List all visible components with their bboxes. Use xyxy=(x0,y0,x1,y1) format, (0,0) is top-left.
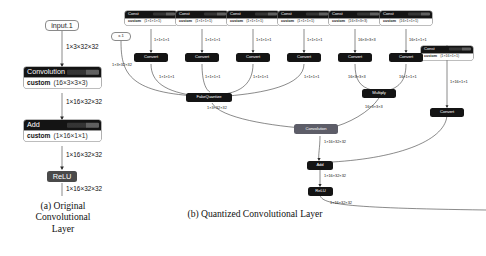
edge-label-b-const-7-out: 1×16×1×1 xyxy=(450,80,468,84)
edge-b-input-fakequantize xyxy=(121,41,196,96)
node-b-convert-5[interactable]: Convert xyxy=(338,53,372,62)
node-a-relu-label: ReLU xyxy=(53,173,72,180)
node-a-add-body: custom (1×16×1×1) xyxy=(24,130,101,141)
node-input-1[interactable]: input.1 xyxy=(45,20,79,31)
node-b-const-6[interactable]: Const custom (16×1×1×1) xyxy=(380,11,432,25)
node-b-convert-1[interactable]: Convert xyxy=(134,53,168,62)
node-b-const-3-title: Const xyxy=(230,12,241,16)
node-a-add-param-name: custom xyxy=(27,133,50,140)
node-b-relu[interactable]: ReLU xyxy=(308,187,333,196)
edge-b-multiply-convolution xyxy=(330,98,379,128)
node-a-convolution[interactable]: Convolution custom (16×3×3×3) xyxy=(24,67,101,88)
node-b-const-1-param-name: custom xyxy=(128,20,141,24)
node-a-add-param-shape: (1×16×1×1) xyxy=(53,133,87,140)
node-a-relu[interactable]: ReLU xyxy=(47,171,77,182)
node-b-const-3-header: Const xyxy=(227,11,279,18)
node-b-const-7-title: Const xyxy=(424,47,435,51)
node-b-fakequantize[interactable]: FakeQuantize xyxy=(186,93,232,102)
node-b-convert-7-label: Convert xyxy=(440,110,454,114)
node-b-const-2-title: Const xyxy=(179,12,190,16)
node-b-const-2[interactable]: Const custom (1×1×1×1) xyxy=(176,11,228,25)
node-b-const-6-title: Const xyxy=(383,12,394,16)
edge-label-b-const-4-out: 1×1×1×1 xyxy=(307,38,322,42)
node-b-const-4-title: Const xyxy=(281,12,292,16)
node-b-const-4[interactable]: Const custom (1×1×1×1) xyxy=(278,11,330,25)
edge-label-a-add-relu: 1×16×32×32 xyxy=(66,152,102,158)
node-b-convert-7[interactable]: Convert xyxy=(430,108,464,117)
node-input-1-label: input.1 xyxy=(51,22,73,29)
node-header-bar-icon xyxy=(204,13,226,16)
node-header-bar-icon xyxy=(449,48,471,51)
node-b-convert-2[interactable]: Convert xyxy=(185,53,219,62)
node-header-bar-icon xyxy=(408,13,430,16)
node-b-convert-6[interactable]: Convert xyxy=(389,53,423,62)
node-b-const-4-param-shape: (1×1×1×1) xyxy=(297,20,314,24)
edge-label-a-relu-out: 1×16×32×32 xyxy=(66,186,102,192)
caption-panel-b: (b) Quantized Convolutional Layer xyxy=(140,208,370,219)
node-b-const-3-body: custom (1×1×1×1) xyxy=(227,18,279,26)
edge-arrowheads xyxy=(60,50,448,187)
node-b-const-1-header: Const xyxy=(125,11,177,18)
node-b-const-5-body: custom (16×3×3×3) xyxy=(329,18,381,26)
node-b-const-2-body: custom (1×1×1×1) xyxy=(176,18,228,26)
edge-b-convolution-add xyxy=(319,136,320,160)
edge-label-a-input-conv: 1×3×32×32 xyxy=(66,44,99,50)
node-b-convolution[interactable]: Convolution xyxy=(294,124,338,134)
edge-label-b-convert-4-out: 1×1×1×1 xyxy=(304,75,319,79)
edge-label-b-const-3-out: 1×1×1×1 xyxy=(256,38,271,42)
caption-panel-a-line-3: Layer xyxy=(8,223,118,234)
node-b-const-2-header: Const xyxy=(176,11,228,18)
edge-label-b-convert-6-out: 16×1×1×1 xyxy=(399,75,417,79)
node-b-const-1-body: custom (1×1×1×1) xyxy=(125,18,177,26)
node-b-const-7[interactable]: Const custom (1×16×1×1) xyxy=(421,46,473,60)
node-b-fakequantize-label: FakeQuantize xyxy=(197,95,222,99)
node-b-add-label: Add xyxy=(316,163,323,167)
caption-panel-a: (a) Original Convolutional Layer xyxy=(8,200,118,234)
node-a-add[interactable]: Add custom (1×16×1×1) xyxy=(24,120,101,141)
node-b-const-7-body: custom (1×16×1×1) xyxy=(421,53,473,61)
node-b-const-2-param-shape: (1×1×1×1) xyxy=(195,20,212,24)
node-a-add-header: Add xyxy=(24,120,101,130)
node-b-convert-2-label: Convert xyxy=(195,55,209,59)
edge-b-convert4-fakequantize xyxy=(228,64,304,96)
node-b-convert-3[interactable]: Convert xyxy=(236,53,270,62)
edge-label-b-convert-3-out: 1×1×1×1 xyxy=(253,75,268,79)
edge-b-convert1-fakequantize xyxy=(151,64,197,96)
node-b-convert-3-label: Convert xyxy=(246,55,260,59)
node-b-const-7-param-name: custom xyxy=(424,55,437,59)
node-b-const-3[interactable]: Const custom (1×1×1×1) xyxy=(227,11,279,25)
node-b-const-6-param-name: custom xyxy=(383,20,396,24)
edge-label-b-const-1-out: 1×1×1×1 xyxy=(154,38,169,42)
edge-label-b-const-5-out: 16×3×3×3 xyxy=(358,38,376,42)
node-b-input-x1[interactable]: x.1 xyxy=(111,32,131,41)
node-b-convolution-label: Convolution xyxy=(305,127,326,131)
node-b-const-7-header: Const xyxy=(421,46,473,53)
edge-label-b-multiply-out: 16×3×3×3 xyxy=(365,105,383,109)
node-b-const-1[interactable]: Const custom (1×1×1×1) xyxy=(125,11,177,25)
node-b-const-4-body: custom (1×1×1×1) xyxy=(278,18,330,26)
node-header-bar-icon xyxy=(306,13,328,16)
node-b-const-3-param-name: custom xyxy=(230,20,243,24)
node-a-convolution-title: Convolution xyxy=(27,68,65,75)
node-b-const-7-param-shape: (1×16×1×1) xyxy=(440,55,459,59)
node-b-const-6-body: custom (16×1×1×1) xyxy=(380,18,432,26)
node-header-bar-icon xyxy=(153,13,175,16)
edge-label-b-fakequantize-out: 1×3×32×32 xyxy=(207,106,227,110)
edge-label-b-convert-5-out: 16×3×3×3 xyxy=(348,75,366,79)
node-b-const-5-param-name: custom xyxy=(332,20,345,24)
edge-label-b-const-2-out: 1×1×1×1 xyxy=(205,38,220,42)
node-b-const-5-header: Const xyxy=(329,11,381,18)
node-b-convert-4[interactable]: Convert xyxy=(287,53,321,62)
node-b-const-5[interactable]: Const custom (16×3×3×3) xyxy=(329,11,381,25)
node-b-multiply[interactable]: Multiply xyxy=(362,89,396,98)
node-a-convolution-header: Convolution xyxy=(24,67,101,77)
node-b-const-6-header: Const xyxy=(380,11,432,18)
node-b-convert-1-label: Convert xyxy=(144,55,158,59)
node-b-multiply-label: Multiply xyxy=(372,91,385,95)
node-b-add[interactable]: Add xyxy=(307,161,333,170)
node-b-convert-5-label: Convert xyxy=(348,55,362,59)
node-b-convert-6-label: Convert xyxy=(399,55,413,59)
caption-panel-a-line-2: Convolutional xyxy=(8,211,118,222)
node-b-const-5-param-shape: (16×3×3×3) xyxy=(348,20,367,24)
node-b-const-5-title: Const xyxy=(332,12,343,16)
